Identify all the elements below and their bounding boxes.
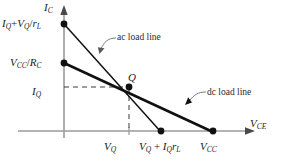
ac-load-line-leader-arrowhead <box>98 47 105 54</box>
dc-load-line <box>64 63 213 132</box>
vcc-label: VCC <box>200 141 217 153</box>
q-point-dot <box>126 84 133 91</box>
ac-load-line-leader <box>101 38 116 49</box>
y-axis-label: IC <box>44 2 53 14</box>
ac-x-intercept-label: VQ + IQrL <box>139 141 180 153</box>
dc-load-line-leader <box>190 92 206 100</box>
dc-x-intercept-dot <box>210 128 217 135</box>
dc-y-intercept-dot <box>61 60 68 67</box>
dc-load-line-annotation: dc load line <box>207 88 251 98</box>
ac-y-intercept-dot <box>61 21 68 28</box>
quiescent-current-label: IQ <box>32 86 41 98</box>
load-line-diagram: IC IQ+VQ/rL VCC/RC IQ VQ VQ + IQrL VCC V… <box>0 0 288 162</box>
y-axis-arrowhead <box>60 5 67 15</box>
ac-x-intercept-dot <box>158 128 165 135</box>
vq-label: VQ <box>104 141 116 153</box>
dc-y-intercept-label: VCC/RC <box>10 57 41 69</box>
diagram-canvas <box>0 0 288 162</box>
ac-y-intercept-label: IQ+VQ/rL <box>2 18 41 30</box>
x-axis-label: VCE <box>250 118 266 130</box>
ac-load-line-annotation: ac load line <box>117 33 161 43</box>
q-point-label: Q <box>128 72 136 83</box>
